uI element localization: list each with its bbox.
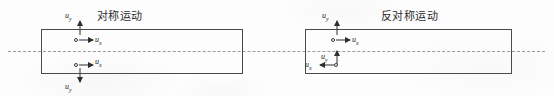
panel-symmetric: 对称运动 uy ux ux uy <box>0 0 277 96</box>
arrow-ux-left-antisymmetric-lower <box>320 61 334 68</box>
origin-marker-antisymmetric-upper <box>331 38 335 42</box>
panel-title-antisymmetric: 反对称运动 <box>381 7 438 23</box>
label-uy-symmetric-upper: uy <box>65 11 72 22</box>
beam-rectangle-symmetric <box>41 29 243 74</box>
origin-marker-antisymmetric-lower <box>334 63 338 67</box>
label-uy-antisymmetric-upper: uy <box>322 11 329 22</box>
arrow-ux-right-symmetric-lower <box>79 61 93 68</box>
label-ux-antisymmetric-upper: ux <box>352 35 359 46</box>
panel-antisymmetric: 反对称运动 uy ux uy ux <box>277 0 554 96</box>
panel-title-symmetric: 对称运动 <box>97 7 143 23</box>
arrow-uy-up-symmetric-upper <box>76 21 83 35</box>
arrow-ux-right-symmetric-upper <box>79 36 93 43</box>
arrow-uy-up-antisymmetric-upper <box>333 21 340 35</box>
origin-marker-symmetric-upper <box>74 38 78 42</box>
arrow-ux-right-antisymmetric-upper <box>336 36 350 43</box>
label-uy-symmetric-lower: uy <box>65 82 72 93</box>
label-ux-symmetric-upper: ux <box>95 35 102 46</box>
arrow-uy-down-symmetric-lower <box>76 68 83 82</box>
origin-marker-symmetric-lower <box>74 63 78 67</box>
label-ux-symmetric-lower: ux <box>95 57 102 68</box>
figure-canvas: 对称运动 uy ux ux uy 反对称运动 <box>0 0 554 96</box>
label-ux-antisymmetric-lower: ux <box>305 60 312 71</box>
